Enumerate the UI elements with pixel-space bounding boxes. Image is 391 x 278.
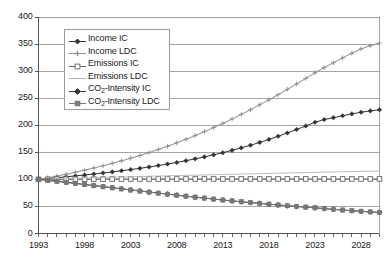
y-axis-tick-label: 50 (2, 200, 33, 210)
series-marker-2 (303, 177, 308, 182)
legend-label: CO2-Intensity IC (88, 83, 151, 93)
legend-label-pre: Emissions LDC (88, 71, 148, 81)
series-marker-2 (147, 177, 152, 182)
series-marker-2 (267, 177, 272, 182)
legend-marker-icon (68, 58, 87, 69)
series-marker-0 (147, 165, 152, 170)
series-marker-0 (165, 162, 170, 167)
series-marker-0 (368, 109, 373, 114)
series-marker-0 (128, 167, 133, 172)
series-marker-0 (202, 155, 207, 160)
series-marker-5 (350, 209, 354, 213)
series-marker-0 (184, 158, 189, 163)
series-line-4 (39, 179, 380, 212)
series-marker-0 (322, 117, 327, 122)
series-marker-5 (64, 180, 68, 184)
series-marker-0 (285, 131, 290, 136)
x-axis-tick-label: 2003 (119, 240, 143, 250)
series-marker-5 (202, 196, 206, 200)
series-marker-2 (248, 177, 253, 182)
y-axis-tick-label: 400 (2, 11, 33, 21)
series-marker-5 (138, 189, 142, 193)
y-axis-tick-label: 150 (2, 146, 33, 156)
series-marker-0 (91, 172, 96, 177)
legend-item-5[interactable]: CO2-Intensity LDC (65, 95, 169, 108)
series-marker-0 (211, 153, 216, 158)
series-marker-2 (257, 177, 262, 182)
series-marker-0 (331, 115, 336, 120)
series-marker-0 (267, 137, 272, 142)
series-marker-5 (55, 179, 59, 183)
series-marker-2 (193, 177, 198, 182)
series-marker-5 (165, 192, 169, 196)
y-axis-tick-label: 250 (2, 92, 33, 102)
series-marker-5 (313, 206, 317, 210)
legend-label-pre: CO (88, 96, 101, 106)
legend-marker-icon (68, 33, 87, 44)
legend-label-subscript: 2 (101, 100, 104, 107)
x-axis-tick-label: 2028 (349, 240, 373, 250)
series-marker-5 (368, 210, 372, 214)
x-axis-tick-label: 2008 (165, 240, 189, 250)
legend-label-pre: CO (88, 83, 101, 93)
legend-item-2[interactable]: Emissions IC (65, 57, 169, 70)
series-marker-2 (294, 177, 299, 182)
series-marker-5 (285, 204, 289, 208)
series-line-5 (39, 179, 380, 212)
x-axis-tick-label: 2023 (303, 240, 327, 250)
series-marker-2 (202, 177, 207, 182)
series-marker-0 (156, 163, 161, 168)
series-marker-5 (129, 188, 133, 192)
chart-legend: Income ICIncome LDCEmissions ICEmissions… (64, 29, 170, 110)
series-marker-2 (377, 177, 382, 182)
y-axis-tick-label: 200 (2, 119, 33, 129)
legend-item-4[interactable]: CO2-Intensity IC (65, 82, 169, 95)
legend-label: Income LDC (88, 46, 137, 56)
series-marker-0 (119, 168, 124, 173)
series-marker-2 (221, 177, 226, 182)
series-marker-0 (138, 166, 143, 171)
series-marker-5 (239, 200, 243, 204)
series-marker-5 (36, 177, 40, 181)
legend-marker-icon (68, 70, 87, 81)
series-marker-0 (340, 113, 345, 118)
series-marker-5 (322, 206, 326, 210)
series-marker-0 (276, 134, 281, 139)
y-axis-tick-label: 300 (2, 65, 33, 75)
legend-marker-icon (68, 83, 87, 94)
series-marker-5 (101, 185, 105, 189)
series-marker-2 (184, 177, 189, 182)
chart-plot-area (0, 0, 391, 278)
series-marker-2 (165, 177, 170, 182)
y-axis-tick-label: 0 (2, 228, 33, 238)
legend-item-3[interactable]: Emissions LDC (65, 70, 169, 83)
legend-item-0[interactable]: Income IC (65, 32, 169, 45)
x-axis-tick-label: 2018 (257, 240, 281, 250)
chart-container: Income ICIncome LDCEmissions ICEmissions… (0, 0, 391, 278)
series-marker-5 (276, 203, 280, 207)
series-marker-2 (322, 177, 327, 182)
series-marker-0 (101, 171, 106, 176)
series-marker-0 (313, 120, 318, 125)
series-marker-5 (304, 205, 308, 209)
series-marker-2 (211, 177, 216, 182)
series-marker-5 (46, 178, 50, 182)
series-marker-2 (359, 177, 364, 182)
y-axis-tick-label: 100 (2, 173, 33, 183)
legend-label: Emissions LDC (88, 71, 148, 81)
series-marker-5 (341, 208, 345, 212)
legend-item-1[interactable]: Income LDC (65, 45, 169, 58)
series-marker-5 (221, 198, 225, 202)
series-marker-5 (377, 210, 381, 214)
series-marker-0 (257, 140, 262, 145)
series-marker-5 (92, 184, 96, 188)
series-marker-2 (313, 177, 318, 182)
legend-marker-icon (68, 45, 87, 56)
legend-marker-icon (68, 95, 87, 106)
series-marker-5 (119, 187, 123, 191)
series-marker-2 (174, 177, 179, 182)
series-marker-5 (294, 204, 298, 208)
series-marker-2 (138, 177, 143, 182)
series-marker-0 (193, 157, 198, 162)
legend-label-post: -Intensity IC (105, 83, 151, 93)
